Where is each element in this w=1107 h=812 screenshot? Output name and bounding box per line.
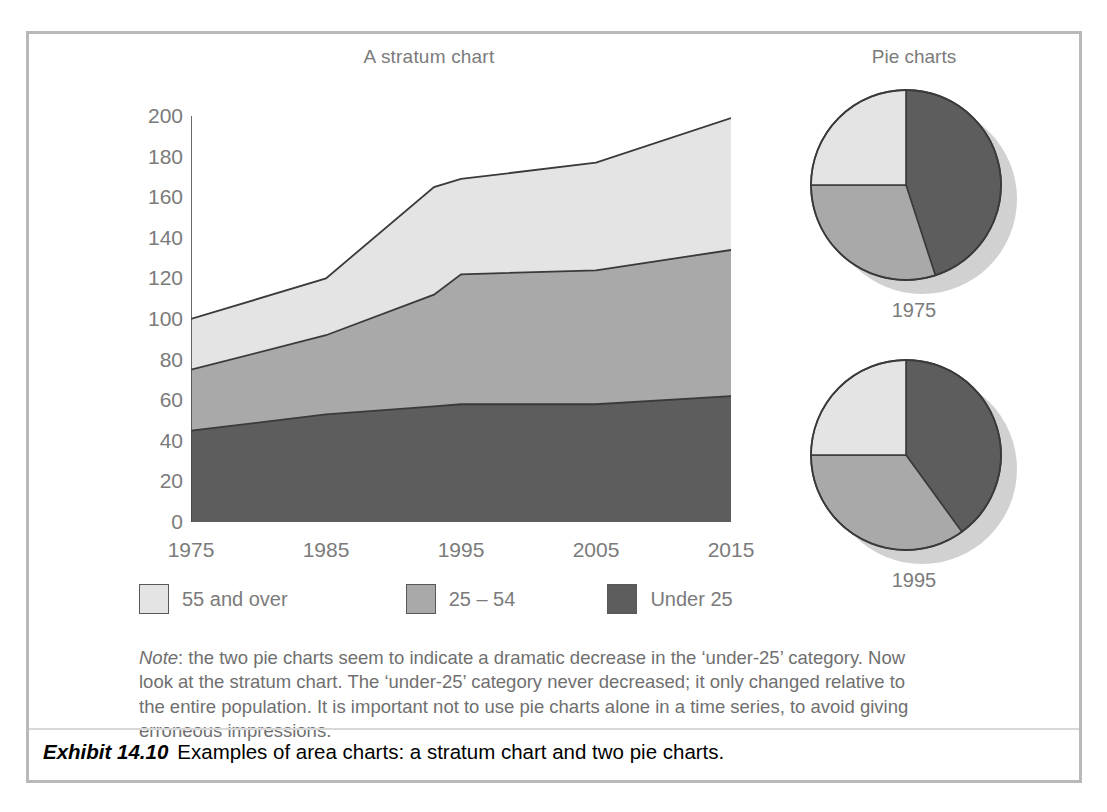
legend-item-1: 25 – 54 bbox=[406, 584, 516, 614]
note-lead: Note bbox=[139, 647, 178, 668]
stratum-plot-area bbox=[191, 116, 731, 522]
y-tick-label-20: 20 bbox=[121, 470, 183, 491]
pie-1995-slice-2 bbox=[811, 360, 906, 455]
x-axis-labels: 19751985199520052015 bbox=[191, 538, 731, 568]
legend-swatch-icon bbox=[607, 584, 637, 614]
legend-item-0: 55 and over bbox=[139, 584, 288, 614]
legend-label: Under 25 bbox=[650, 588, 732, 611]
pie-1975-caption: 1975 bbox=[764, 299, 1064, 322]
x-tick-label-2005: 2005 bbox=[573, 538, 620, 562]
x-tick-label-1995: 1995 bbox=[438, 538, 485, 562]
exhibit-caption: Exhibit 14.10Examples of area charts: a … bbox=[43, 740, 1063, 764]
pie-chart-1995: 1995 bbox=[764, 352, 1064, 592]
y-tick-label-0: 0 bbox=[121, 511, 183, 532]
stratum-chart: A stratum chart 020406080100120140160180… bbox=[99, 42, 759, 562]
y-tick-label-60: 60 bbox=[121, 389, 183, 410]
y-tick-label-160: 160 bbox=[121, 186, 183, 207]
pie-charts-title: Pie charts bbox=[764, 46, 1064, 68]
y-tick-label-120: 120 bbox=[121, 267, 183, 288]
stratum-chart-title: A stratum chart bbox=[99, 46, 759, 68]
legend-label: 55 and over bbox=[182, 588, 288, 611]
legend-swatch-icon bbox=[406, 584, 436, 614]
y-tick-label-140: 140 bbox=[121, 227, 183, 248]
exhibit-number: Exhibit 14.10 bbox=[43, 740, 168, 763]
legend: 55 and over25 – 54Under 25 bbox=[139, 579, 699, 619]
legend-label: 25 – 54 bbox=[449, 588, 516, 611]
pie-chart-1975: 1975 bbox=[764, 82, 1064, 322]
x-tick-label-1975: 1975 bbox=[168, 538, 215, 562]
pie-1995-svg bbox=[794, 352, 1034, 567]
y-axis-labels: 020406080100120140160180200 bbox=[111, 116, 183, 522]
y-tick-label-200: 200 bbox=[121, 105, 183, 126]
exhibit-frame: A stratum chart 020406080100120140160180… bbox=[26, 31, 1082, 783]
x-tick-label-2015: 2015 bbox=[708, 538, 755, 562]
caption-divider bbox=[29, 728, 1079, 730]
pie-1975-slice-2 bbox=[811, 90, 906, 185]
y-tick-label-180: 180 bbox=[121, 146, 183, 167]
legend-item-2: Under 25 bbox=[607, 584, 732, 614]
x-tick-label-1985: 1985 bbox=[303, 538, 350, 562]
pie-1995-caption: 1995 bbox=[764, 569, 1064, 592]
pie-1975-svg bbox=[794, 82, 1034, 297]
stratum-plot-svg bbox=[191, 116, 731, 522]
exhibit-caption-text: Examples of area charts: a stratum chart… bbox=[177, 740, 724, 763]
pie-charts-group: Pie charts 1975 1995 bbox=[764, 42, 1064, 632]
y-tick-label-40: 40 bbox=[121, 430, 183, 451]
y-tick-label-80: 80 bbox=[121, 349, 183, 370]
y-tick-label-100: 100 bbox=[121, 308, 183, 329]
legend-swatch-icon bbox=[139, 584, 169, 614]
